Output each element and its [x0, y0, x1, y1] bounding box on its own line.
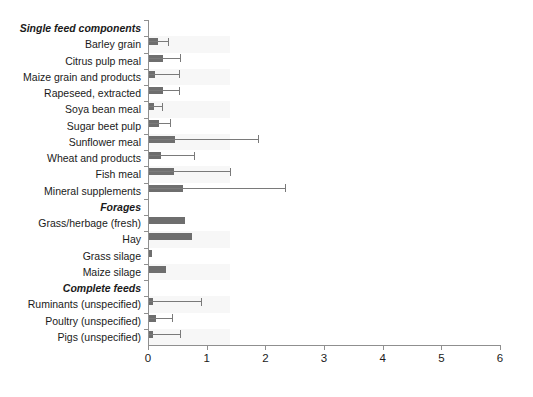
error-bar	[148, 171, 230, 172]
error-bar	[148, 106, 162, 107]
error-bar	[148, 58, 180, 59]
chart-row	[148, 134, 500, 150]
section-label: Single feed components	[0, 20, 144, 36]
error-bar-cap	[179, 87, 180, 95]
chart-row	[148, 296, 500, 312]
chart-row	[148, 215, 500, 231]
category-label: Wheat and products	[0, 150, 144, 166]
error-bar	[148, 41, 168, 42]
category-label: Fish meal	[0, 166, 144, 182]
y-axis-labels: Single feed componentsBarley grainCitrus…	[0, 20, 144, 345]
category-label: Hay	[0, 231, 144, 247]
chart-row	[148, 118, 500, 134]
category-label: Rapeseed, extracted	[0, 85, 144, 101]
x-tick-label: 2	[250, 352, 280, 364]
chart-row	[148, 264, 500, 280]
category-label: Maize silage	[0, 264, 144, 280]
x-tick	[265, 345, 266, 350]
chart-row	[148, 183, 500, 199]
category-label: Barley grain	[0, 36, 144, 52]
x-tick-label: 6	[485, 352, 515, 364]
error-bar	[148, 139, 258, 140]
category-label: Sunflower meal	[0, 134, 144, 150]
row-band	[148, 329, 230, 345]
error-bar-cap	[180, 330, 181, 338]
chart-row	[148, 313, 500, 329]
row-band	[148, 101, 230, 117]
error-bar	[148, 318, 172, 319]
section-row	[148, 280, 500, 296]
chart-row	[148, 166, 500, 182]
section-row	[148, 199, 500, 215]
error-bar	[148, 155, 194, 156]
row-band	[148, 296, 230, 312]
chart-row	[148, 101, 500, 117]
category-label: Sugar beet pulp	[0, 118, 144, 134]
error-bar	[148, 334, 180, 335]
category-label: Mineral supplements	[0, 183, 144, 199]
chart-row	[148, 231, 500, 247]
error-bar-cap	[170, 119, 171, 127]
error-bar-cap	[258, 135, 259, 143]
x-tick	[148, 345, 149, 350]
error-bar-cap	[180, 54, 181, 62]
row-band	[148, 36, 230, 52]
plot-area	[148, 20, 500, 345]
error-bar-cap	[285, 184, 286, 192]
chart-row	[148, 69, 500, 85]
y-axis-line	[148, 20, 149, 345]
x-tick-label: 4	[368, 352, 398, 364]
error-bar	[148, 90, 179, 91]
error-bar	[148, 301, 201, 302]
category-label: Citrus pulp meal	[0, 53, 144, 69]
section-row	[148, 20, 500, 36]
bar-chart: Single feed componentsBarley grainCitrus…	[0, 0, 533, 397]
category-label: Soya bean meal	[0, 101, 144, 117]
error-bar-cap	[162, 103, 163, 111]
category-label: Ruminants (unspecified)	[0, 296, 144, 312]
chart-row	[148, 85, 500, 101]
chart-row	[148, 248, 500, 264]
x-tick	[324, 345, 325, 350]
chart-row	[148, 150, 500, 166]
x-tick	[500, 345, 501, 350]
category-label: Grass silage	[0, 248, 144, 264]
error-bar	[148, 74, 179, 75]
error-bar-cap	[194, 152, 195, 160]
chart-row	[148, 329, 500, 345]
x-tick-label: 5	[426, 352, 456, 364]
error-bar	[148, 123, 170, 124]
chart-row	[148, 53, 500, 69]
category-label: Poultry (unspecified)	[0, 313, 144, 329]
x-tick-label: 3	[309, 352, 339, 364]
bar	[148, 217, 185, 224]
x-tick-label: 0	[133, 352, 163, 364]
error-bar-cap	[168, 38, 169, 46]
category-label: Grass/herbage (fresh)	[0, 215, 144, 231]
bar	[148, 233, 192, 240]
x-tick-label: 1	[192, 352, 222, 364]
row-band	[148, 69, 230, 85]
section-label: Forages	[0, 199, 144, 215]
bar	[148, 266, 166, 273]
x-tick	[383, 345, 384, 350]
error-bar-cap	[172, 314, 173, 322]
error-bar-cap	[201, 298, 202, 306]
category-label: Maize grain and products	[0, 69, 144, 85]
error-bar-cap	[230, 168, 231, 176]
error-bar-cap	[179, 70, 180, 78]
chart-row	[148, 36, 500, 52]
x-tick	[441, 345, 442, 350]
category-label: Pigs (unspecified)	[0, 329, 144, 345]
x-tick	[207, 345, 208, 350]
error-bar	[148, 188, 285, 189]
section-label: Complete feeds	[0, 280, 144, 296]
